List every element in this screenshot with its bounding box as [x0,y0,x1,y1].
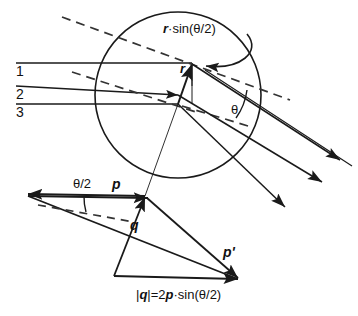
triangle-base [114,276,238,279]
formula-p: p [166,287,174,302]
ray-label-3: 3 [16,105,24,119]
diagram-canvas [0,0,358,316]
impact-parameter-label-rest: ·sin(θ/2) [168,21,216,36]
scattering-angle-label: θ [231,103,238,116]
construction-link-line [145,104,178,196]
scattering-diagram: 1 2 3 r·sin(θ/2) r θ θ/2 p q p' |q|=2p·s… [0,0,358,316]
impact-parameter-callout-arrow [206,34,252,67]
exit-ray-2 [178,95,322,182]
formula-equals: =2 [151,287,166,302]
vector-p-label: p [112,177,121,191]
incoming-ray-group [16,63,192,104]
incoming-ray-2 [16,86,178,95]
vector-triangle-group [28,194,238,279]
momentum-transfer-formula: |q|=2p·sin(θ/2) [136,288,221,301]
exit-ray-3 [178,104,285,207]
exit-ray-1 [192,64,340,160]
ray-label-1: 1 [16,64,24,78]
ray-label-2: 2 [16,87,24,101]
half-angle-arc [84,196,86,212]
exit-ray-group [178,64,352,207]
impact-parameter-label: r·sin(θ/2) [163,22,216,35]
vector-q-label: q [130,218,139,232]
half-angle-label: θ/2 [73,177,91,190]
formula-tail: ·sin(θ/2) [174,287,222,302]
radius-vector-label: r [180,62,185,75]
vector-p-prime-label: p' [223,245,235,259]
vector-p-prime [147,198,238,278]
